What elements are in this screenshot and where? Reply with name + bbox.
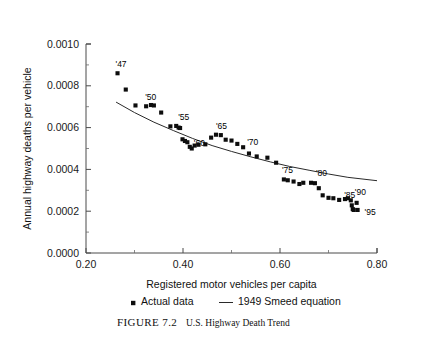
data-point — [331, 196, 335, 200]
data-point — [352, 208, 356, 212]
highway-death-trend-chart: 0.00000.00020.00040.00060.00080.00100.20… — [0, 0, 424, 337]
x-axis-title: Registered motor vehicles per capita — [146, 278, 317, 290]
data-point — [301, 181, 305, 185]
figure-container: 0.00000.00020.00040.00060.00080.00100.20… — [0, 0, 424, 337]
caption-title: U.S. Highway Death Trend — [186, 318, 290, 328]
data-point — [355, 201, 359, 205]
y-axis-title: Annual highway deaths per vehicle — [21, 67, 33, 229]
y-tick-label-1: 0.0002 — [47, 205, 79, 217]
legend-label-actual-data: Actual data — [141, 295, 194, 307]
data-point — [356, 208, 360, 212]
data-point — [193, 144, 197, 148]
legend-marker-actual-data — [131, 301, 135, 305]
data-point-year-label: '75 — [282, 165, 293, 175]
data-point — [321, 193, 325, 197]
data-point — [224, 138, 228, 142]
data-point — [214, 133, 218, 137]
data-point — [133, 103, 137, 107]
x-tick-label-2: 0.60 — [270, 258, 291, 270]
data-point — [247, 151, 251, 155]
data-point — [241, 145, 245, 149]
y-tick-label-4: 0.0008 — [47, 79, 79, 91]
data-point — [219, 133, 223, 137]
y-tick-label-3: 0.0006 — [47, 121, 79, 133]
x-tick-label-1: 0.40 — [173, 258, 194, 270]
y-tick-label-2: 0.0004 — [47, 163, 79, 175]
data-point — [178, 126, 182, 130]
data-point — [274, 161, 278, 165]
data-point — [168, 124, 172, 128]
data-point — [309, 181, 313, 185]
data-point-year-label: '90 — [355, 187, 366, 197]
data-point — [286, 178, 290, 182]
data-point — [317, 186, 321, 190]
x-tick-label-0: 0.20 — [76, 258, 97, 270]
data-point — [292, 179, 296, 183]
data-point — [229, 139, 233, 143]
data-point — [124, 88, 128, 92]
actual-data-points: '47'50'55'60'65'70'75'80'85'90'95 — [115, 59, 375, 217]
data-point-year-label: '95 — [365, 207, 376, 217]
data-point-year-label: '80 — [316, 168, 327, 178]
data-point — [337, 198, 341, 202]
data-point — [297, 182, 301, 186]
data-point-year-label: '70 — [247, 137, 258, 147]
data-point — [255, 154, 259, 158]
data-point — [326, 196, 330, 200]
data-point-year-label: '50 — [145, 92, 156, 102]
data-point — [350, 203, 354, 207]
y-tick-label-0: 0.0000 — [47, 247, 79, 259]
data-point — [203, 142, 207, 146]
data-point — [235, 142, 239, 146]
data-point — [265, 156, 269, 160]
legend-label-smeed-equation: 1949 Smeed equation — [238, 295, 341, 307]
y-tick-label-5: 0.0010 — [47, 38, 79, 50]
data-point-year-label: '65 — [216, 121, 227, 131]
data-point — [196, 143, 200, 147]
data-point — [159, 111, 163, 115]
data-point — [185, 140, 189, 144]
caption-figure-number: FIGURE 7.2 — [117, 316, 177, 328]
data-point — [209, 136, 213, 140]
data-point-year-label: '47 — [116, 59, 127, 69]
data-point — [313, 181, 317, 185]
data-point — [152, 103, 156, 107]
data-point — [349, 198, 353, 202]
x-tick-label-3: 0.80 — [367, 258, 388, 270]
data-point — [282, 177, 286, 181]
data-point-year-label: '55 — [178, 112, 189, 122]
axis-frame — [86, 44, 377, 253]
data-point — [144, 104, 148, 108]
data-point — [115, 71, 119, 75]
